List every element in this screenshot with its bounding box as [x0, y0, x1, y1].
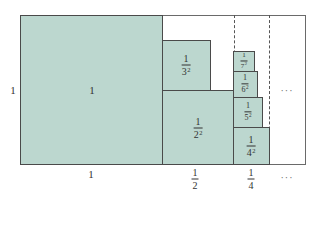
- fraction-1-over-4-squared: 1 42: [247, 135, 256, 158]
- bottom-label-1-over-4: 1 4: [248, 168, 255, 191]
- side-length-label: 1: [10, 85, 16, 96]
- unit-square-label: 1: [89, 85, 95, 96]
- fraction-1-over-2-squared: 1 22: [194, 117, 203, 140]
- fraction-1-over-7-squared: 1 72: [241, 52, 248, 69]
- bottom-label-1-over-2: 1 2: [192, 168, 199, 191]
- fraction-1-over-3-squared: 1 32: [182, 54, 191, 77]
- fraction-1-over-6-squared: 1 62: [241, 74, 248, 93]
- inner-ellipsis: ···: [281, 85, 294, 96]
- bottom-label-1: 1: [88, 169, 94, 180]
- fraction-1-over-5-squared: 1 52: [244, 102, 251, 121]
- bottom-ellipsis: ···: [281, 172, 294, 183]
